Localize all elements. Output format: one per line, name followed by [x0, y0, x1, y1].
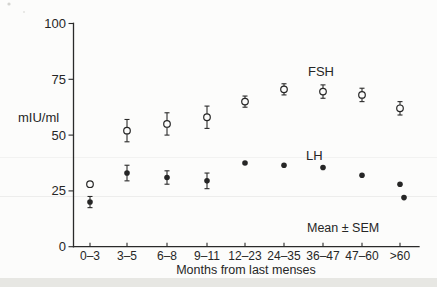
lh-series-label: LH — [306, 148, 323, 163]
x-tick-label: >60 — [390, 249, 411, 263]
x-tick-label: 6–8 — [157, 249, 177, 263]
fsh-data-point — [242, 98, 249, 105]
y-axis-unit-label: mIU/ml — [18, 110, 59, 125]
x-tick-label: 47–60 — [345, 249, 379, 263]
x-tick-label: 0–3 — [80, 249, 100, 263]
hormone-scatter-figure: 02550751000–33–56–89–1112–2324–3536–4747… — [0, 0, 437, 287]
x-axis-title: Months from last menses — [176, 263, 316, 277]
lh-extra-data-point — [401, 195, 407, 201]
fsh-data-point — [124, 127, 131, 134]
y-tick-label: 75 — [52, 72, 66, 87]
fsh-data-point — [204, 114, 211, 121]
data-points — [87, 84, 407, 208]
x-tick-label: 24–35 — [267, 249, 301, 263]
y-tick-label: 50 — [52, 128, 66, 143]
x-tick-label: 12–23 — [228, 249, 262, 263]
x-tick-label: 36–47 — [306, 249, 340, 263]
x-tick-label: 9–11 — [194, 249, 220, 263]
y-tick-label: 25 — [52, 183, 66, 198]
x-tick-label: 3–5 — [117, 249, 137, 263]
fsh-data-point — [87, 181, 94, 188]
mean-sem-note: Mean ± SEM — [307, 221, 379, 235]
fsh-series-label: FSH — [308, 64, 334, 79]
lh-data-point — [204, 178, 210, 184]
fsh-data-point — [397, 105, 404, 112]
lh-data-point — [164, 175, 170, 181]
lh-data-point — [397, 181, 403, 187]
lh-data-point — [320, 165, 326, 171]
lh-data-point — [281, 162, 287, 168]
fsh-data-point — [320, 88, 327, 95]
lh-data-point — [242, 160, 248, 166]
fsh-data-point — [359, 92, 366, 99]
fsh-lh-scatter-plot: 02550751000–33–56–89–1112–2324–3536–4747… — [0, 0, 437, 287]
fsh-data-point — [164, 121, 171, 128]
y-tick-label: 100 — [44, 16, 66, 31]
fsh-data-point — [281, 86, 288, 93]
lh-data-point — [359, 172, 365, 178]
lh-data-point — [124, 170, 130, 176]
y-tick-label: 0 — [59, 239, 66, 254]
lh-data-point — [87, 199, 93, 205]
